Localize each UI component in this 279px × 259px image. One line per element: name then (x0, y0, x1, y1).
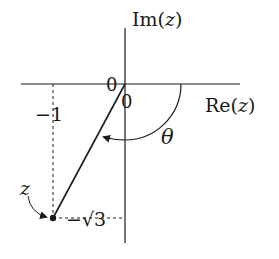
real-coordinate-label: −1 (35, 105, 63, 124)
origin-label-below: 0 (121, 93, 132, 111)
real-label-suffix: ) (248, 94, 255, 116)
origin-label-left: 0 (106, 76, 117, 94)
real-axis-label: Re(z) (205, 96, 255, 115)
point-z-label: z (20, 179, 30, 198)
imaginary-axis-label: Im(z) (132, 10, 182, 29)
angle-theta-label: θ (161, 127, 174, 148)
imag-label-var: z (165, 8, 175, 30)
real-label-var: z (238, 94, 248, 116)
real-label-prefix: Re( (205, 94, 238, 116)
point-z (50, 215, 56, 221)
imag-label-suffix: ) (175, 8, 182, 30)
complex-plane-diagram: Im(z) Re(z) 0 0 −1 −√3 z θ (0, 0, 279, 259)
imag-label-prefix: Im( (132, 8, 165, 30)
diagram-graphics (0, 0, 279, 259)
vector-to-z (53, 84, 125, 218)
z-label-arrow (28, 196, 46, 217)
imag-coordinate-label: −√3 (66, 210, 106, 229)
